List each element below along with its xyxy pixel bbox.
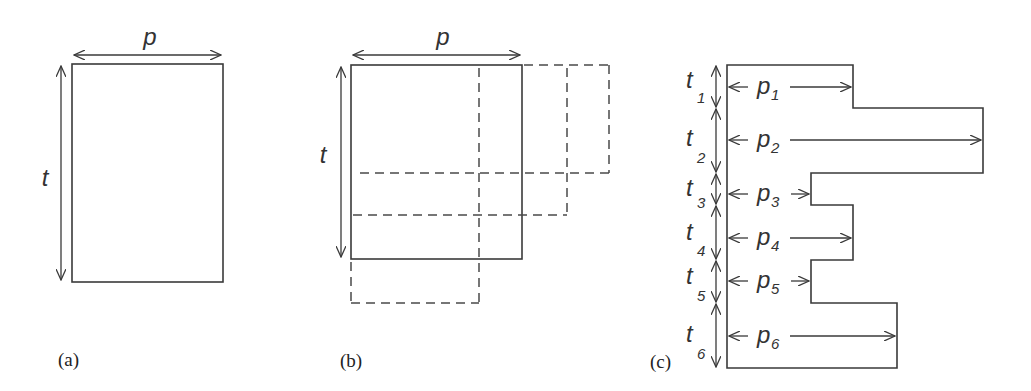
p2-subscript: 2: [770, 139, 780, 156]
p1-label: p: [756, 72, 770, 99]
width-label: p: [142, 23, 156, 50]
panel-caption-c: (c): [650, 351, 671, 373]
diagram-canvas: p t (a) p t (b): [0, 0, 1031, 391]
t2-subscript: 2: [696, 149, 706, 166]
height-label: t: [320, 141, 328, 168]
height-label: t: [42, 164, 50, 191]
p4-label: p: [756, 223, 770, 250]
t2-label: t: [686, 124, 694, 151]
p5-label: p: [756, 266, 770, 293]
panel-a: p t (a): [42, 23, 223, 371]
t6-subscript: 6: [697, 345, 706, 362]
t5-subscript: 5: [697, 287, 706, 304]
panel-caption-a: (a): [58, 349, 79, 371]
t6-label: t: [686, 320, 694, 347]
rectangle-p-by-t: [72, 64, 223, 282]
p5-subscript: 5: [771, 280, 780, 297]
width-label: p: [435, 23, 449, 50]
t3-label: t: [686, 174, 694, 201]
p3-subscript: 3: [771, 193, 780, 210]
t1-label: t: [686, 66, 694, 93]
panel-c: t 1 t 2 t 3 t 4 t 5 t 6 p 1 p 2 p 3 p 4 …: [650, 65, 983, 373]
p2-label: p: [756, 125, 770, 152]
t1-subscript: 1: [697, 89, 705, 106]
p3-label: p: [756, 179, 770, 206]
t3-subscript: 3: [697, 194, 706, 211]
p6-label: p: [756, 321, 770, 348]
rectangle-p-by-t: [351, 65, 522, 259]
p6-subscript: 6: [771, 335, 780, 352]
t4-label: t: [686, 218, 694, 245]
t5-label: t: [686, 262, 694, 289]
p-labels: p 1 p 2 p 3 p 4 p 5 p 6: [756, 72, 780, 352]
shifted-rectangles-dashed: [351, 65, 609, 303]
panel-caption-b: (b): [340, 350, 362, 372]
p1-subscript: 1: [771, 86, 779, 103]
t-labels: t 1 t 2 t 3 t 4 t 5 t 6: [686, 66, 706, 362]
t4-subscript: 4: [697, 242, 705, 259]
p4-subscript: 4: [771, 237, 779, 254]
panel-b: p t (b): [320, 23, 609, 372]
